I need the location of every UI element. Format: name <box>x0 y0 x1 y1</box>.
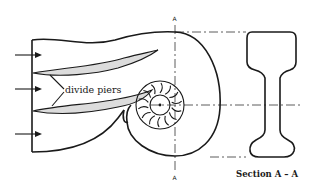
impeller-center <box>159 104 162 107</box>
inlet-arrows <box>15 52 42 137</box>
arrow-right-icon <box>15 86 42 92</box>
intake-bottom-curve <box>32 110 124 152</box>
cut-label-top: A <box>173 15 178 22</box>
arrow-right-icon <box>15 131 42 137</box>
turbine-diagram: A A divide piers <box>0 0 310 190</box>
pier-upper <box>33 50 158 75</box>
impeller <box>136 81 184 129</box>
pier-leader-lower <box>52 92 64 106</box>
casing-outer-curve <box>32 32 220 156</box>
arrow-right-icon <box>15 52 42 58</box>
section-title: Section A – A <box>236 169 298 179</box>
divide-piers-label: divide piers <box>65 84 122 95</box>
pier-leader-upper <box>50 75 64 89</box>
section-a-a-profile <box>247 32 296 157</box>
cut-label-bottom: A <box>173 174 178 181</box>
spiral-casing <box>32 32 220 156</box>
divide-piers <box>33 50 158 114</box>
